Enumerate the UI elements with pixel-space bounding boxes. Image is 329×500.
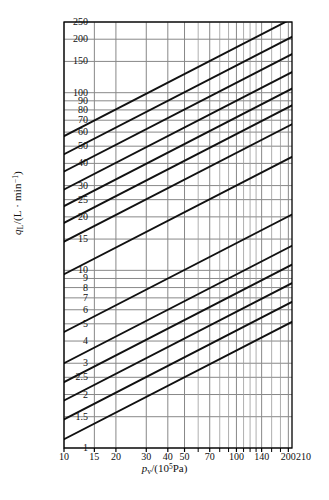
y-tick-label: 40: [28, 158, 88, 168]
y-tick-label: 30: [28, 181, 88, 191]
y-tick-label: 2: [28, 390, 88, 400]
y-tick-label: 7: [28, 293, 88, 303]
y-tick-label: 20: [28, 212, 88, 222]
plot-canvas: [0, 0, 329, 500]
y-tick-label: 10: [28, 265, 88, 275]
y-tick-label: 150: [28, 56, 88, 66]
y-tick-label: 100: [28, 88, 88, 98]
y-tick-label: 8: [28, 283, 88, 293]
y-tick-label: 4: [28, 336, 88, 346]
y-tick-label: 25: [28, 195, 88, 205]
y-tick-label: 60: [28, 127, 88, 137]
y-tick-label: 250: [28, 17, 88, 27]
y-tick-label: 50: [28, 141, 88, 151]
nomogram-chart: qL/(L · min−1) pv/(105Pa) 11.522.5345678…: [0, 0, 329, 500]
y-tick-label: 80: [28, 105, 88, 115]
y-tick-label: 15: [28, 234, 88, 244]
y-tick-label: 5: [28, 319, 88, 329]
y-tick-label: 1.5: [28, 412, 88, 422]
y-tick-label: 6: [28, 305, 88, 315]
y-tick-label: 200: [28, 34, 88, 44]
x-axis-end-label: 210: [296, 452, 311, 462]
y-tick-label: 2.5: [28, 372, 88, 382]
y-tick-label: 3: [28, 358, 88, 368]
y-tick-label: 70: [28, 115, 88, 125]
